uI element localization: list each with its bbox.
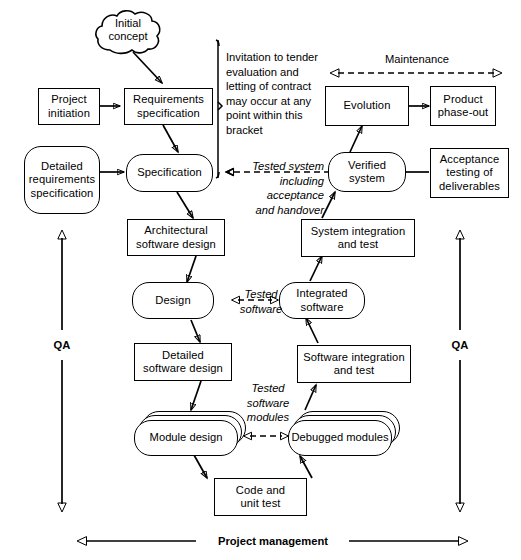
node-module-design-label: Module design: [150, 431, 223, 444]
node-requirements-specification-label: Requirements specification: [130, 93, 207, 119]
node-detailed-software-design-label: Detailed software design: [140, 349, 226, 375]
node-design-label: Design: [152, 294, 193, 307]
node-integrated-software[interactable]: Integrated software: [279, 282, 365, 319]
node-verified-system-label: Verified system: [345, 159, 389, 185]
node-requirements-specification[interactable]: Requirements specification: [124, 88, 213, 125]
node-system-integration-and-test-label: System integration and test: [308, 225, 408, 251]
node-evolution[interactable]: Evolution: [325, 86, 409, 126]
node-verified-system[interactable]: Verified system: [328, 152, 406, 192]
node-evolution-label: Evolution: [341, 99, 394, 112]
node-detailed-requirements-specification-label: Detailed requirements specification: [26, 160, 99, 200]
node-initial-concept[interactable]: Initial concept: [92, 8, 164, 56]
node-acceptance-testing-of-deliverables[interactable]: Acceptance testing of deliverables: [430, 148, 509, 198]
node-code-and-unit-test[interactable]: Code and unit test: [214, 478, 307, 516]
node-module-design[interactable]: Module design: [134, 411, 246, 457]
label-qa-left: QA: [42, 338, 82, 353]
node-architectural-software-design-label: Architectural software design: [133, 224, 219, 250]
node-product-phase-out-label: Product phase-out: [435, 93, 492, 119]
node-product-phase-out[interactable]: Product phase-out: [430, 86, 496, 126]
node-software-integration-and-test-label: Software integration and test: [300, 351, 408, 377]
node-integrated-software-label: Integrated software: [293, 287, 350, 313]
label-bracket-note: Invitation to tender evaluation and lett…: [226, 50, 336, 137]
node-code-and-unit-test-label: Code and unit test: [233, 484, 288, 510]
debugged-modules-stack-front: Debugged modules: [288, 420, 392, 456]
label-tested-software-modules: Tested software modules: [238, 381, 298, 425]
node-architectural-software-design[interactable]: Architectural software design: [127, 219, 225, 256]
node-debugged-modules[interactable]: Debugged modules: [288, 411, 400, 457]
label-qa-right: QA: [440, 338, 480, 353]
label-maintenance: Maintenance: [342, 52, 492, 67]
label-tested-system: Tested system including acceptance and h…: [226, 159, 324, 217]
node-acceptance-testing-of-deliverables-label: Acceptance testing of deliverables: [436, 153, 503, 193]
node-software-integration-and-test[interactable]: Software integration and test: [297, 345, 411, 383]
label-tested-software: Tested software: [233, 287, 289, 316]
node-specification-label: Specification: [134, 166, 205, 179]
node-detailed-software-design[interactable]: Detailed software design: [134, 343, 232, 381]
node-initial-concept-label: Initial concept: [92, 17, 164, 43]
node-project-initiation-label: Project initiation: [45, 93, 93, 119]
node-specification[interactable]: Specification: [126, 154, 213, 192]
node-system-integration-and-test[interactable]: System integration and test: [301, 219, 415, 257]
node-design[interactable]: Design: [132, 282, 214, 319]
module-design-stack-front: Module design: [134, 420, 238, 456]
node-project-initiation[interactable]: Project initiation: [38, 88, 100, 125]
node-debugged-modules-label: Debugged modules: [291, 431, 388, 444]
node-detailed-requirements-specification[interactable]: Detailed requirements specification: [24, 146, 100, 214]
label-project-management: Project management: [197, 534, 349, 549]
diagram-canvas: Initial concept Project initiation Requi…: [0, 0, 521, 560]
